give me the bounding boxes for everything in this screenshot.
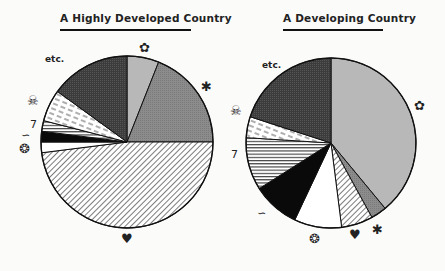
label-etc: etc. [45,53,64,66]
chart-developing: A Developing Country etc. ✿ ✱ ♥ ❂ ∽ 7 ☠ [222,0,445,271]
skull-icon: ☠ [27,94,39,107]
heart-icon: ♥ [349,228,361,241]
swirl-icon: ❂ [309,232,320,245]
chart-highly-developed: A Highly Developed Country etc. ✿ ✱ ♥ ☠ … [0,0,222,271]
seven-icon: 7 [231,148,238,161]
skull-icon: ☠ [230,104,242,117]
seven-icon: 7 [30,118,37,131]
pie-slice [42,142,213,228]
crab-icon: ✱ [372,223,383,236]
heart-icon: ♥ [121,232,133,245]
crab-icon: ✱ [201,80,212,93]
worm-icon: ∽ [257,207,266,220]
swirl-icon: ❂ [19,142,30,155]
label-etc: etc. [262,59,281,72]
pie-chart [222,0,445,271]
pie-chart [0,0,222,271]
germ-icon: ✿ [139,41,150,54]
germ-icon: ✿ [414,99,425,112]
